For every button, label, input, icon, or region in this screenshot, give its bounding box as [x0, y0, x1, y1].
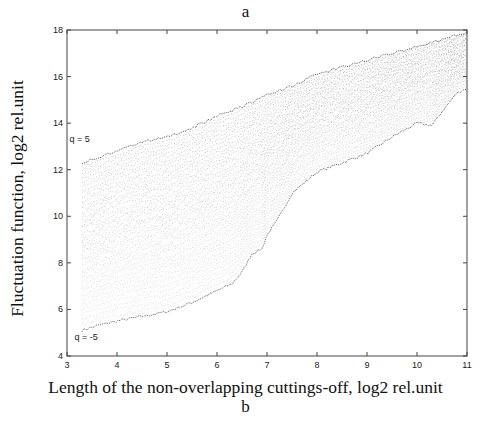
data-curves [82, 33, 466, 332]
x-tick-label: 6 [214, 360, 219, 370]
fluctuation-curve [82, 62, 466, 247]
fluctuation-curve [82, 81, 466, 309]
y-axis-label: Fluctuation function, log2 rel.unit [7, 34, 28, 364]
fluctuation-curve [82, 55, 466, 234]
x-tick-label: 11 [462, 360, 471, 370]
fluctuation-curve [82, 48, 466, 213]
figure-caption: b [0, 397, 491, 417]
y-tick-label: 14 [53, 118, 63, 128]
q-annotation: q = 5 [70, 134, 90, 144]
x-tick-label: 5 [164, 360, 169, 370]
y-tick-label: 4 [58, 351, 63, 361]
x-tick-label: 10 [412, 360, 422, 370]
fluctuation-curve [82, 42, 466, 193]
x-tick-label: 8 [314, 360, 319, 370]
fluctuation-curve [82, 63, 466, 251]
fluctuation-curve [82, 85, 466, 319]
fluctuation-curve [82, 88, 466, 324]
fluctuation-curve [82, 37, 466, 178]
y-tick-label: 18 [53, 25, 63, 35]
y-tick-label: 6 [58, 304, 63, 314]
y-tick-label: 8 [58, 258, 63, 268]
q-annotation: q = -5 [75, 332, 98, 342]
y-tick-label: 12 [53, 165, 63, 175]
fluctuation-curve [82, 77, 466, 296]
y-tick-label: 10 [53, 211, 63, 221]
x-tick-label: 7 [264, 360, 269, 370]
annotations: q = 5q = -5 [70, 134, 98, 342]
x-axis-label: Length of the non-overlapping cuttings-o… [0, 377, 491, 398]
x-tick-label: 4 [114, 360, 119, 370]
fluctuation-curve [82, 46, 466, 203]
x-tick-label: 3 [64, 360, 69, 370]
fluctuation-curve [82, 34, 466, 171]
x-tick-label: 9 [364, 360, 369, 370]
fluctuation-curve [82, 85, 466, 316]
fluctuation-curve [82, 69, 466, 272]
axis-ticks: 345678910114681012141618 [53, 25, 472, 370]
y-tick-label: 16 [53, 72, 63, 82]
fluctuation-curve [82, 59, 466, 241]
fluctuation-curve [82, 67, 466, 265]
chart-plot: 345678910114681012141618 q = 5q = -5 [0, 0, 491, 421]
